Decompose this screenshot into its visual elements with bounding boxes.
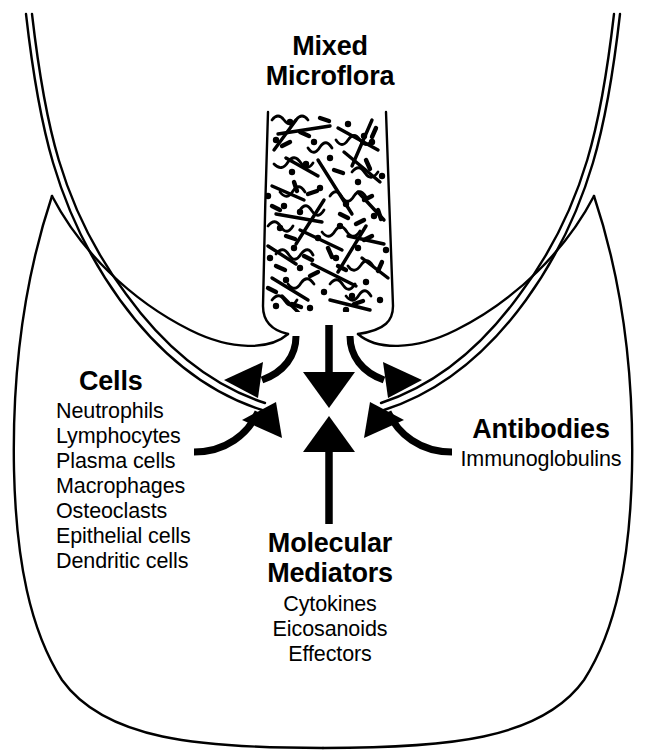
mediators-heading: Molecular Mediators xyxy=(267,530,393,590)
list-item: Effectors xyxy=(273,644,388,666)
microflora-heading: Mixed Microflora xyxy=(266,33,395,93)
list-item: Lymphocytes xyxy=(56,426,191,448)
cells-list: Neutrophils Lymphocytes Plasma cells Mac… xyxy=(56,401,191,576)
arrow-cells-inflow-left xyxy=(194,402,282,452)
list-item: Plasma cells xyxy=(56,451,191,473)
list-item: Macrophages xyxy=(56,476,191,498)
arrow-tissue-to-plaque-up xyxy=(303,416,355,524)
list-item: Dendritic cells xyxy=(56,551,191,573)
list-item: Immunoglobulins xyxy=(460,449,621,471)
antibodies-heading: Antibodies xyxy=(472,416,610,443)
mediators-list: Cytokines Eicosanoids Effectors xyxy=(273,594,388,669)
list-item: Neutrophils xyxy=(56,401,191,423)
periodontal-diagram: Mixed Microflora Cells Neutrophils Lymph… xyxy=(0,0,646,751)
antibodies-list: Immunoglobulins xyxy=(460,449,621,474)
list-item: Cytokines xyxy=(273,594,388,616)
arrow-antibodies-inflow-right xyxy=(364,402,452,452)
microflora-heading-line-1: Mixed xyxy=(266,33,395,60)
microflora-heading-line-2: Microflora xyxy=(266,63,395,90)
list-item: Epithelial cells xyxy=(56,526,191,548)
mediators-heading-line-2: Mediators xyxy=(267,560,393,587)
list-item: Eicosanoids xyxy=(273,619,388,641)
list-item: Osteoclasts xyxy=(56,501,191,523)
cells-heading: Cells xyxy=(79,368,143,395)
mediators-heading-line-1: Molecular xyxy=(267,530,393,557)
subgingival-plaque-biofilm xyxy=(265,116,389,314)
